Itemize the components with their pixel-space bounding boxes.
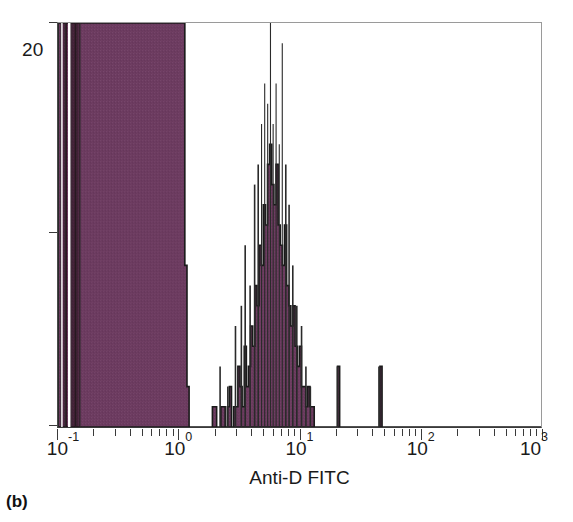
x-axis-tick-24: [402, 429, 403, 436]
x-axis-label-2: 101: [285, 437, 313, 461]
plot-area: [58, 23, 541, 427]
x-axis-tick-19: [336, 429, 337, 436]
flow-cytometry-figure: 20 10-1100101102103 Anti-D FITC: [0, 0, 573, 522]
x-axis-label-1: 100: [164, 437, 192, 461]
x-axis-tick-7: [166, 429, 167, 436]
x-axis-tick-21: [372, 429, 373, 436]
x-axis-tick-28: [457, 429, 458, 436]
x-axis-tick-15: [281, 429, 282, 436]
x-axis-tick-5: [151, 429, 152, 436]
x-axis-tick-31: [506, 429, 507, 436]
x-axis-tick-6: [159, 429, 160, 436]
x-axis-tick-35: [536, 429, 537, 436]
x-axis-label-4: 103: [520, 437, 548, 461]
x-axis-tick-12: [251, 429, 252, 436]
histogram-plot: [58, 23, 541, 427]
x-axis-tick-2: [115, 429, 116, 436]
histogram-series: [58, 23, 541, 427]
x-axis-tick-23: [394, 429, 395, 436]
x-axis-title: Anti-D FITC: [57, 466, 542, 490]
x-axis-tick-26: [415, 429, 416, 436]
panel-label: (b): [6, 492, 28, 512]
x-axis-tick-25: [409, 429, 410, 436]
x-axis-tick-14: [273, 429, 274, 436]
y-axis-tick-label-20: 20: [22, 39, 44, 61]
x-axis-tick-33: [523, 429, 524, 436]
histogram-filled-area: [58, 23, 541, 427]
x-axis-tick-16: [288, 429, 289, 436]
x-axis-tick-labels: 10-1100101102103: [57, 437, 542, 465]
x-axis-tick-4: [142, 429, 143, 436]
x-axis-tick-29: [479, 429, 480, 436]
plot-frame: [57, 22, 542, 428]
x-axis-label-3: 102: [407, 437, 435, 461]
x-axis-tick-22: [384, 429, 385, 436]
x-axis-tick-17: [294, 429, 295, 436]
x-axis-tick-32: [515, 429, 516, 436]
x-axis-tick-1: [93, 429, 94, 436]
histogram-left-gap-1: [68, 23, 70, 427]
x-axis-tick-20: [357, 429, 358, 436]
x-axis-tick-11: [236, 429, 237, 436]
x-axis-tick-10: [215, 429, 216, 436]
histogram-left-gap-0: [61, 23, 62, 427]
x-axis-tick-13: [263, 429, 264, 436]
x-axis-tick-34: [530, 429, 531, 436]
x-axis-label-0: 10-1: [47, 437, 79, 461]
x-axis-tick-8: [173, 429, 174, 436]
x-axis-tick-3: [130, 429, 131, 436]
x-axis-tick-30: [494, 429, 495, 436]
